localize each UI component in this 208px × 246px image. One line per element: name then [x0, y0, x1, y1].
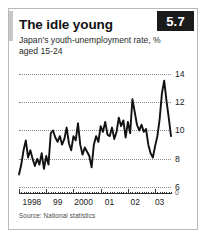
series-line-japan-youth-unemployment [19, 65, 171, 193]
plot-area [19, 65, 171, 193]
x-axis-label-03: 03 [155, 197, 164, 207]
series-path [19, 81, 171, 175]
x-axis-label-2000: 2000 [74, 197, 93, 207]
y-axis-label-8: 8 [175, 154, 180, 164]
y-axis-label-12: 12 [175, 97, 185, 107]
chart-subtitle-line-2: aged 15-24 [19, 46, 169, 57]
left-accent-bar [9, 11, 13, 41]
chart-title: The idle young [19, 17, 113, 32]
x-axis-label-02: 02 [131, 197, 140, 207]
source-note: Source: National statistics [19, 212, 95, 219]
chart-subtitle-line-1: Japan’s youth-unemployment rate, % [19, 35, 169, 46]
x-axis-label-01: 01 [105, 197, 114, 207]
chart-card: 5.7 The idle young Japan’s youth-unemplo… [8, 8, 198, 230]
x-axis-label-1998: 1998 [23, 197, 42, 207]
chart-subtitle: Japan’s youth-unemployment rate, % aged … [19, 35, 169, 56]
x-axis-labels: 1998992000010203 [19, 197, 171, 209]
chart-number-badge: 5.7 [157, 11, 194, 31]
x-axis-label-99: 99 [53, 197, 62, 207]
x-axis-line [19, 193, 171, 194]
y-axis-label-10: 10 [175, 125, 185, 135]
y-axis-label-14: 14 [175, 69, 185, 79]
y-axis-zero-break-label: 0 [175, 189, 179, 196]
x-axis-tick [171, 192, 172, 195]
